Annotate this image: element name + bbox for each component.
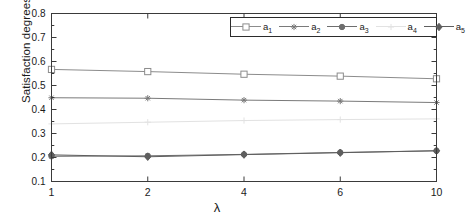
legend-marker-circle-icon bbox=[338, 23, 346, 31]
y-tick-label-0.8: 0.8 bbox=[12, 8, 46, 19]
data-point-a2-3 bbox=[337, 98, 343, 104]
series-a2 bbox=[48, 95, 439, 106]
x-tick-label-6: 6 bbox=[325, 186, 355, 198]
data-point-a4-legend bbox=[388, 24, 394, 30]
data-point-a3-legend bbox=[340, 24, 345, 29]
legend-label-a2: a2 bbox=[309, 21, 327, 34]
x-tick-label-4: 4 bbox=[229, 186, 259, 198]
x-tick-label-10: 10 bbox=[422, 186, 452, 198]
legend[interactable]: a1a2a3a4a5 bbox=[230, 17, 437, 37]
y-tick-label-0.6: 0.6 bbox=[12, 56, 46, 67]
series-a4 bbox=[48, 116, 439, 127]
legend-sample-a1 bbox=[231, 20, 261, 34]
legend-sample-a2 bbox=[279, 20, 309, 34]
y-tick-label-0.3: 0.3 bbox=[12, 128, 46, 139]
series-a5 bbox=[48, 147, 439, 160]
legend-marker-square-icon bbox=[242, 23, 250, 31]
data-point-a4-3 bbox=[337, 116, 343, 122]
legend-item-a1[interactable]: a1 bbox=[231, 18, 279, 36]
legend-label-a4: a4 bbox=[406, 21, 424, 34]
legend-sample-a3 bbox=[327, 20, 357, 34]
legend-marker-diamond-icon bbox=[435, 23, 443, 31]
data-point-a5-legend bbox=[436, 23, 442, 30]
x-tick-label-2: 2 bbox=[133, 186, 163, 198]
data-point-a1-legend bbox=[243, 24, 249, 30]
series-a1 bbox=[48, 66, 439, 82]
data-point-a4-1 bbox=[145, 119, 151, 125]
data-point-a2-legend bbox=[291, 24, 297, 30]
legend-item-a4[interactable]: a4 bbox=[376, 18, 424, 36]
legend-item-a2[interactable]: a2 bbox=[279, 18, 327, 36]
legend-sample-a5 bbox=[424, 20, 454, 34]
legend-marker-star-icon bbox=[290, 23, 298, 31]
data-point-a1-2 bbox=[241, 71, 247, 77]
data-point-a1-1 bbox=[145, 68, 151, 74]
x-tick-label-1: 1 bbox=[37, 186, 67, 198]
legend-label-a5: a5 bbox=[454, 21, 470, 34]
y-tick-label-0.7: 0.7 bbox=[12, 32, 46, 43]
data-point-a4-2 bbox=[241, 117, 247, 123]
data-point-a2-1 bbox=[145, 95, 151, 101]
legend-label-a1: a1 bbox=[261, 21, 279, 34]
legend-label-a3: a3 bbox=[357, 21, 375, 34]
data-point-a2-2 bbox=[241, 97, 247, 103]
y-tick-label-0.2: 0.2 bbox=[12, 152, 46, 163]
legend-item-a5[interactable]: a5 bbox=[424, 18, 470, 36]
data-point-a1-3 bbox=[337, 73, 343, 79]
y-tick-label-0.4: 0.4 bbox=[12, 104, 46, 115]
legend-item-a3[interactable]: a3 bbox=[327, 18, 375, 36]
legend-sample-a4 bbox=[376, 20, 406, 34]
legend-marker-plus-icon bbox=[387, 23, 395, 31]
y-tick-label-0.5: 0.5 bbox=[12, 80, 46, 91]
